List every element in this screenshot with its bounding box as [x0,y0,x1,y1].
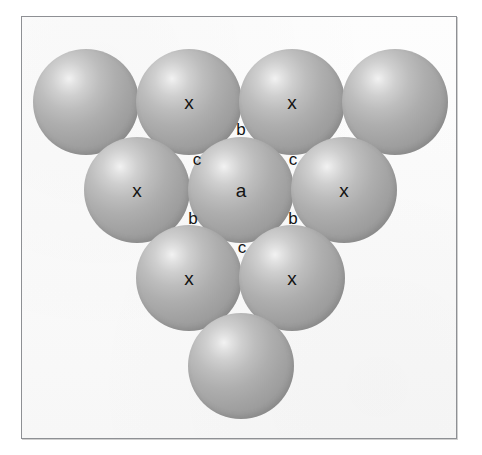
sphere-label-r3c1: x [136,269,242,288]
interstitial-label-gap-lower-left: b [188,210,197,227]
figure-root: xxxaxxxbccbbc [0,0,482,455]
diagram-panel: xxxaxxxbccbbc [21,16,457,439]
sphere-packing-diagram: xxxaxxxbccbbc [22,17,456,438]
interstitial-label-gap-bottom: c [238,239,247,256]
sphere-label-r1c2: x [136,93,242,112]
interstitial-label-gap-upper-left: c [193,151,202,168]
sphere-label-r1c3: x [239,93,345,112]
interstitial-label-gap-upper-right: c [289,151,298,168]
sphere-label-r2c1: x [84,181,190,200]
interstitial-label-gap-top: b [236,121,245,138]
sphere-r4c1 [188,313,294,419]
sphere-label-r2c3: x [291,181,397,200]
interstitial-label-gap-lower-right: b [288,210,297,227]
sphere-label-r3c2: x [239,269,345,288]
sphere-label-r2c2: a [188,181,294,200]
